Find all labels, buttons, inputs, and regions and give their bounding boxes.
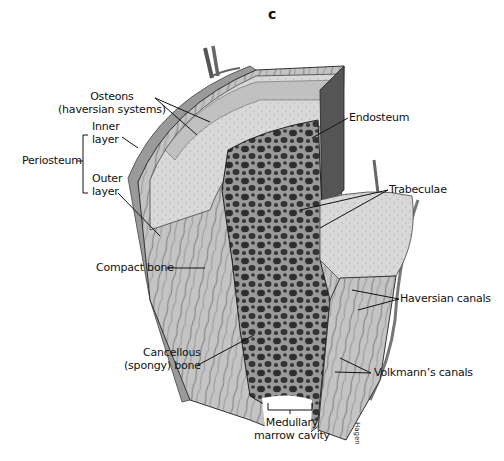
label-osteons: Osteons (haversian systems)	[58, 90, 166, 116]
label-haversian-canals: Haversian canals	[400, 292, 491, 305]
label-medullary-cavity: Medullary marrow cavity	[247, 416, 337, 442]
label-volkmanns-canals: Volkmann’s canals	[374, 366, 473, 379]
label-inner-layer: Inner layer	[92, 120, 119, 146]
bone-illustration: Hagen	[0, 0, 504, 461]
label-trabeculae: Trabeculae	[389, 183, 447, 196]
label-compact-bone: Compact bone	[96, 261, 174, 274]
label-cancellous-bone: Cancellous (spongy) bone	[124, 346, 201, 372]
label-outer-layer: Outer layer	[92, 172, 122, 198]
panel-letter: c	[268, 6, 276, 22]
artist-signature: Hagen	[353, 422, 361, 445]
bone-structure-figure: Hagen c Osteons (haversian systems) Inne…	[0, 0, 504, 461]
label-periosteum: Periosteum	[22, 154, 82, 167]
label-endosteum: Endosteum	[349, 111, 409, 124]
